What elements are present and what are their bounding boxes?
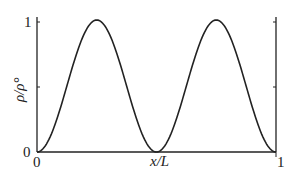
y-tick-label-top: 1 [24, 14, 32, 30]
density-chart: 1 0 0 1 x/L ρ/ρ° [0, 0, 297, 175]
x-tick-label-right: 1 [277, 154, 285, 170]
y-axis-label: ρ/ρ° [11, 77, 27, 103]
y-tick-label-bottom: 0 [23, 144, 31, 160]
x-tick-label-left: 0 [33, 154, 41, 170]
x-axis-label: x/L [149, 153, 169, 169]
density-curve [37, 20, 276, 152]
